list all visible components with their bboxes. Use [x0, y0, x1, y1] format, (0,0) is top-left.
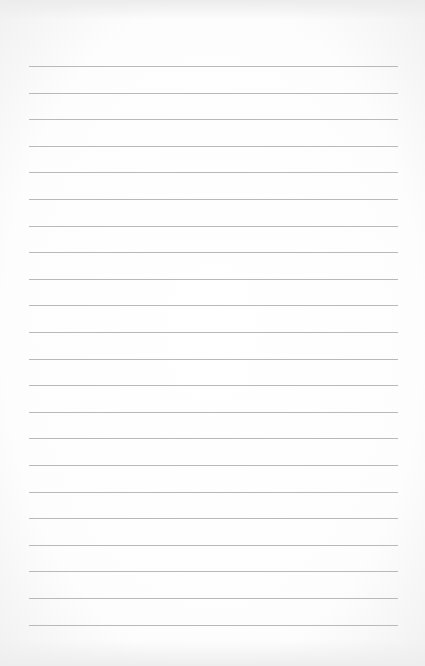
ruled-line [29, 465, 398, 466]
ruled-line [29, 518, 398, 519]
ruled-line [29, 571, 398, 572]
ruled-line [29, 359, 398, 360]
ruled-line [29, 279, 398, 280]
ruled-line [29, 226, 398, 227]
ruled-line [29, 305, 398, 306]
ruled-line [29, 93, 398, 94]
ruled-line [29, 119, 398, 120]
ruled-line [29, 545, 398, 546]
ruled-line [29, 252, 398, 253]
ruled-line [29, 438, 398, 439]
paper-top-edge [0, 0, 425, 20]
ruled-line [29, 199, 398, 200]
ruled-line [29, 598, 398, 599]
ruled-line [29, 66, 398, 67]
ruled-line [29, 492, 398, 493]
ruled-line [29, 172, 398, 173]
paper-bottom-edge [0, 640, 425, 666]
ruled-line [29, 146, 398, 147]
lined-paper-sheet [0, 0, 425, 666]
ruled-line [29, 385, 398, 386]
ruled-line [29, 625, 398, 626]
ruled-line [29, 412, 398, 413]
ruled-line [29, 332, 398, 333]
